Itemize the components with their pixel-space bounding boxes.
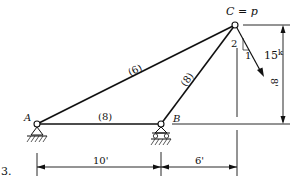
arrowhead	[153, 165, 161, 170]
truss-diagram: C = p 2 1 15k 8' (6) (8) (8) A B 10' 6' …	[0, 0, 297, 185]
dimension-6ft-label: 6'	[195, 155, 204, 166]
joint-C-pin	[232, 22, 238, 28]
joint-A-pin	[34, 121, 40, 127]
vertical-dimension-label: 8'	[269, 78, 280, 87]
arrowhead	[229, 165, 237, 170]
roller-support-B	[151, 127, 171, 145]
pin-support-A	[27, 127, 47, 142]
member-AB-label: (8)	[98, 111, 112, 122]
problem-number: 3.	[1, 165, 12, 178]
joint-C-label: C = p	[226, 5, 258, 18]
member-AC-label: (6)	[126, 62, 144, 78]
arrowhead-down	[281, 116, 286, 124]
joint-A-label: A	[23, 112, 31, 123]
arrowhead	[37, 165, 45, 170]
arrowhead-up	[281, 25, 286, 33]
member-BC-label: (8)	[178, 70, 195, 88]
load-arrowhead	[257, 68, 264, 78]
member-BC	[161, 25, 235, 124]
slope-rise-label: 2	[231, 38, 237, 49]
slope-run-label: 1	[245, 50, 251, 61]
load-magnitude-label: 15k	[264, 48, 283, 62]
joint-B-pin	[158, 121, 164, 127]
arrowhead	[161, 165, 169, 170]
joint-B-label: B	[172, 113, 180, 124]
dimension-10ft-label: 10'	[93, 155, 108, 166]
